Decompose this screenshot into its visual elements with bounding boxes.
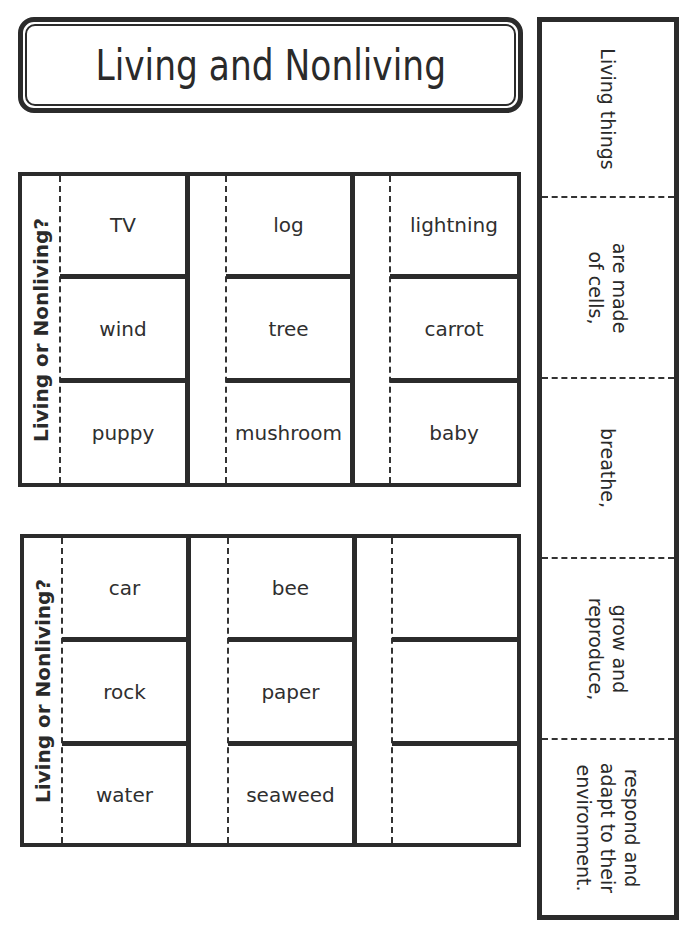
flap-cell[interactable]: log [227, 176, 350, 274]
strip-segment[interactable]: are made of cells, [542, 198, 674, 377]
flap-cell[interactable]: carrot [391, 279, 517, 378]
grid-2-side-label: Living or Nonliving? [24, 538, 62, 843]
flap-cell[interactable]: tree [227, 279, 350, 378]
flap-cell[interactable]: TV [61, 176, 185, 274]
flap-cell[interactable]: lightning [391, 176, 517, 274]
flap-cell[interactable]: paper [229, 642, 352, 741]
column-divider [186, 538, 191, 843]
flap-cell[interactable]: bee [229, 538, 352, 637]
flap-cell[interactable]: puppy [61, 383, 185, 483]
column-divider [185, 176, 190, 483]
flap-cell[interactable]: car [63, 538, 186, 637]
flap-cell[interactable]: water [63, 746, 186, 843]
flap-cell[interactable]: seaweed [229, 746, 352, 843]
flap-cell[interactable]: baby [391, 383, 517, 483]
grid-1-side-label: Living or Nonliving? [22, 176, 60, 483]
title-box: Living and Nonliving [25, 24, 516, 106]
strip-segment[interactable]: grow and reproduce, [542, 559, 674, 738]
flap-cell[interactable]: wind [61, 279, 185, 378]
empty-flap-cell[interactable] [393, 538, 517, 637]
column-divider [352, 538, 357, 843]
strip-segment[interactable]: Living things [542, 22, 674, 196]
flap-cell[interactable]: mushroom [227, 383, 350, 483]
empty-flap-cell[interactable] [393, 642, 517, 741]
flap-cell[interactable]: rock [63, 642, 186, 741]
empty-flap-cell[interactable] [393, 746, 517, 843]
page-title: Living and Nonliving [95, 41, 446, 90]
strip-segment[interactable]: breathe, [542, 379, 674, 557]
strip-segment[interactable]: respond and adapt to their environment. [542, 740, 674, 915]
column-divider [350, 176, 355, 483]
